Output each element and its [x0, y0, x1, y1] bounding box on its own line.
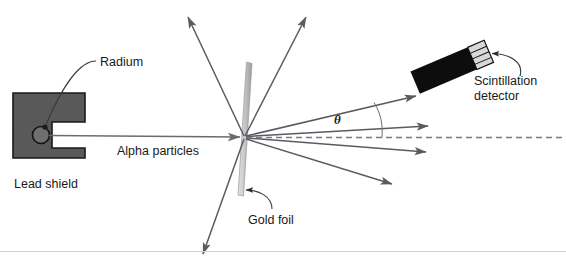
lead-shield-label: Lead shield [14, 177, 78, 191]
alpha-particles-label: Alpha particles [117, 144, 199, 158]
rutherford-scattering-diagram: Radium Lead shield Alpha particles Gold … [0, 0, 566, 263]
scattered-ray-back-down-left [203, 139, 244, 254]
scattered-ray-forward-down [246, 138, 426, 152]
theta-angle-arc [374, 103, 382, 138]
scattered-ray-forward-down-steep [246, 139, 392, 184]
scattered-ray-up-right-steep [245, 17, 306, 136]
radium-leader-dot [42, 124, 47, 129]
scattered-ray-forward-up [246, 126, 428, 137]
incident-alpha-beam [49, 136, 240, 138]
scintillation-detector-label-line2: detector [474, 89, 519, 103]
lead-shield-body [13, 93, 85, 158]
gold-foil-leader-line [246, 190, 272, 209]
radium-label: Radium [100, 55, 143, 69]
gold-foil-label: Gold foil [248, 213, 294, 227]
radium-source-icon [33, 127, 50, 144]
scintillation-detector-label-line1: Scintillation [474, 74, 537, 88]
scattered-rays-group [188, 17, 428, 254]
theta-angle-label: θ [334, 112, 341, 127]
diagram-canvas: Radium Lead shield Alpha particles Gold … [0, 0, 566, 263]
scattered-ray-to-detector [246, 96, 416, 136]
scattered-ray-back-up-left [188, 17, 244, 136]
detector-leader-line [492, 54, 521, 77]
lead-shield-group [13, 93, 85, 158]
